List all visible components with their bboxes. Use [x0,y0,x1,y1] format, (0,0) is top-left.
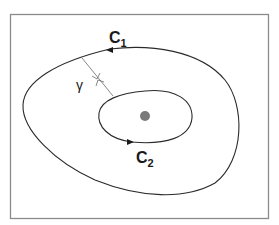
contour-diagram: C1 C2 γ [0,0,279,225]
figure-frame [11,15,269,219]
label-gamma: γ [76,77,83,93]
center-point [140,111,150,121]
